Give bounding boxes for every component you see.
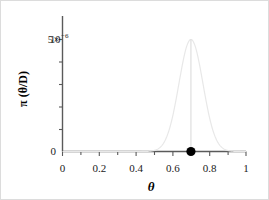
x-tick-label-3: 0.6 bbox=[166, 162, 180, 174]
x-tick-label-5: 1 bbox=[243, 162, 249, 174]
chart-figure: 5 × 10 −6 0 0 0.2 0.4 0.6 0.8 1 θ π (θ/D… bbox=[0, 0, 269, 200]
y-tick-label-top-base-visible: 10 bbox=[50, 34, 61, 45]
x-tick-label-0: 0 bbox=[60, 162, 66, 174]
x-tick-label-1: 0.2 bbox=[92, 162, 106, 174]
posterior-curve bbox=[63, 40, 247, 152]
x-tick-label-2: 0.4 bbox=[129, 162, 143, 174]
mode-point-marker bbox=[186, 147, 195, 156]
chart-plot-area: 5 × 10 −6 0 0 0.2 0.4 0.6 0.8 1 θ π (θ/D… bbox=[1, 1, 269, 200]
y-tick-label-zero: 0 bbox=[51, 145, 57, 157]
y-tick-label-top-exponent: −6 bbox=[61, 32, 69, 40]
x-axis-title: θ bbox=[148, 179, 155, 194]
x-tick-label-4: 0.8 bbox=[203, 162, 217, 174]
y-axis-title: π (θ/D) bbox=[16, 71, 30, 107]
y-axis-title-group: π (θ/D) bbox=[16, 71, 30, 107]
